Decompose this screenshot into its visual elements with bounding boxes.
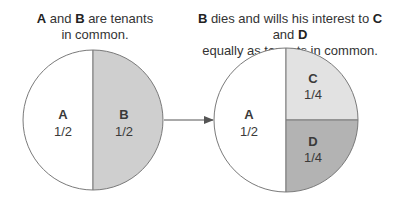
- pie-after: A 1/2 C 1/4 D 1/4: [214, 48, 358, 192]
- segment-a-fraction: 1/2: [54, 124, 72, 139]
- segment-c-name: C: [308, 71, 318, 86]
- pie-before: A 1/2 B 1/2: [23, 50, 163, 190]
- segment-b-fraction: 1/2: [115, 124, 133, 139]
- segment-d-fraction: 1/4: [304, 150, 322, 165]
- segment-a-name: A: [58, 107, 68, 122]
- segment-d-name: D: [308, 134, 317, 149]
- segment-b-name: B: [119, 107, 128, 122]
- segment-c-after: [286, 48, 358, 120]
- ownership-diagram: A 1/2 B 1/2 A 1/2 C 1/4 D 1/4: [0, 0, 399, 203]
- segment-a-fraction: 1/2: [240, 124, 258, 139]
- segment-c-fraction: 1/4: [304, 87, 322, 102]
- segment-a-name: A: [244, 107, 254, 122]
